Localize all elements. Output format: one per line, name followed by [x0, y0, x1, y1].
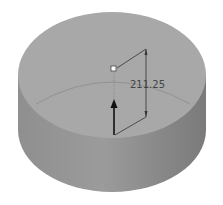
cylinder-body[interactable] [18, 12, 206, 192]
cylinder-top-face[interactable] [18, 12, 206, 138]
cad-viewport[interactable]: 211.25 [0, 0, 223, 205]
dimension-value-label[interactable]: 211.25 [130, 79, 165, 90]
dimension-drag-handle[interactable] [111, 66, 116, 71]
